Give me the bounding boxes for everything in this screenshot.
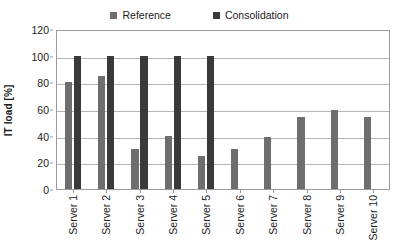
y-tick-label: 100 <box>31 51 49 62</box>
bar[interactable] <box>140 56 147 189</box>
bar[interactable] <box>98 76 105 189</box>
legend-entry[interactable]: Consolidation <box>213 10 289 21</box>
x-tick-mark <box>240 190 241 193</box>
y-axis-title: IT load [%] <box>1 30 17 190</box>
legend-swatch-icon <box>213 12 220 19</box>
legend-label: Consolidation <box>225 10 289 21</box>
bar[interactable] <box>131 149 138 189</box>
y-tick-label: 60 <box>37 105 49 116</box>
it-load-bar-chart: ReferenceConsolidation IT load [%] 12010… <box>0 0 399 251</box>
bar-group <box>356 31 389 189</box>
x-tick-mark <box>373 190 374 193</box>
plot-area <box>56 30 390 190</box>
bar-group <box>123 31 156 189</box>
y-tick-mark <box>50 163 53 164</box>
x-tick-label: Server 2 <box>101 195 112 235</box>
legend-label: Reference <box>122 10 170 21</box>
x-tick-slot: Server 9 <box>323 190 356 251</box>
y-axis-title-label: IT load [%] <box>4 84 15 136</box>
bar-group <box>57 31 90 189</box>
bar[interactable] <box>297 117 304 189</box>
y-tick-mark <box>50 30 53 31</box>
x-axis-ticks: Server 1Server 2Server 3Server 4Server 5… <box>56 190 390 251</box>
bar[interactable] <box>198 156 205 189</box>
bar[interactable] <box>264 137 271 189</box>
x-tick-mark <box>106 190 107 193</box>
y-tick-mark <box>50 190 53 191</box>
y-tick-mark <box>50 83 53 84</box>
x-tick-mark <box>140 190 141 193</box>
x-tick-label: Server 1 <box>67 195 78 235</box>
bar-group <box>223 31 256 189</box>
x-tick-slot: Server 10 <box>357 190 390 251</box>
x-tick-slot: Server 1 <box>56 190 89 251</box>
x-tick-slot: Server 3 <box>123 190 156 251</box>
x-tick-label: Server 7 <box>268 195 279 235</box>
chart-legend: ReferenceConsolidation <box>0 7 399 23</box>
bar[interactable] <box>174 56 181 189</box>
y-tick-label: 20 <box>37 158 49 169</box>
x-tick-mark <box>173 190 174 193</box>
x-tick-label: Server 6 <box>234 195 245 235</box>
x-tick-slot: Server 5 <box>190 190 223 251</box>
x-tick-label: Server 3 <box>134 195 145 235</box>
bar-group <box>157 31 190 189</box>
x-tick-label: Server 4 <box>168 195 179 235</box>
bar-group <box>323 31 356 189</box>
bar[interactable] <box>74 56 81 189</box>
bar-group <box>190 31 223 189</box>
y-tick-label: 40 <box>37 131 49 142</box>
bar[interactable] <box>165 136 172 189</box>
bar[interactable] <box>65 82 72 189</box>
legend-entry[interactable]: Reference <box>110 10 170 21</box>
x-tick-slot: Server 6 <box>223 190 256 251</box>
y-tick-label: 80 <box>37 78 49 89</box>
bar-group <box>90 31 123 189</box>
x-tick-label: Server 10 <box>368 195 379 241</box>
legend-swatch-icon <box>110 12 117 19</box>
x-tick-label: Server 5 <box>201 195 212 235</box>
bar[interactable] <box>364 117 371 189</box>
bar-group <box>289 31 322 189</box>
bar[interactable] <box>207 56 214 189</box>
bars-layer <box>57 31 389 189</box>
x-tick-mark <box>273 190 274 193</box>
y-tick-mark <box>50 136 53 137</box>
bar-group <box>256 31 289 189</box>
x-tick-mark <box>73 190 74 193</box>
y-tick-label: 0 <box>43 185 49 196</box>
bar[interactable] <box>231 149 238 189</box>
x-tick-mark <box>206 190 207 193</box>
x-tick-label: Server 8 <box>301 195 312 235</box>
x-tick-mark <box>340 190 341 193</box>
y-tick-label: 120 <box>31 25 49 36</box>
y-tick-mark <box>50 110 53 111</box>
x-tick-slot: Server 2 <box>89 190 122 251</box>
bar[interactable] <box>331 110 338 189</box>
y-tick-mark <box>50 56 53 57</box>
x-tick-slot: Server 7 <box>256 190 289 251</box>
x-tick-slot: Server 4 <box>156 190 189 251</box>
y-axis-ticks: 120100806040200 <box>17 30 53 190</box>
bar[interactable] <box>107 56 114 189</box>
x-tick-slot: Server 8 <box>290 190 323 251</box>
x-tick-label: Server 9 <box>335 195 346 235</box>
x-tick-mark <box>307 190 308 193</box>
